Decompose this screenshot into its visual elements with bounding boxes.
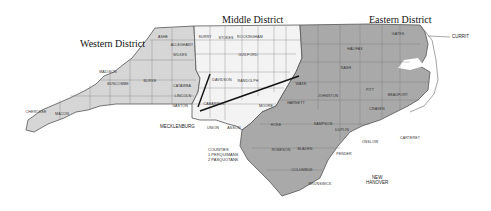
- county-label: MOORE: [259, 104, 273, 108]
- county-label: HALIFAX: [347, 47, 362, 51]
- county-label: PENDER: [336, 152, 352, 156]
- county-label: NASH: [341, 66, 351, 70]
- county-label: JOHNSTON: [318, 94, 339, 98]
- county-label: HOKE: [271, 123, 282, 127]
- county-label: MADISON: [99, 70, 116, 74]
- county-label: CARTERET: [400, 136, 420, 140]
- county-label: MACON: [55, 112, 69, 116]
- county-label: SURRY: [198, 35, 211, 39]
- county-label: COLUMBUS: [291, 168, 312, 172]
- county-label: ALLEGHANY: [171, 43, 193, 47]
- county-label: CABARRUS: [204, 102, 225, 106]
- county-label: CHEROKEE: [26, 110, 47, 114]
- county-label: WILKES: [173, 53, 187, 57]
- counties-legend: COUNTIES 1 PERQUIMANS 2 PASQUOTANK: [208, 147, 239, 162]
- county-label: STOKES: [218, 36, 233, 40]
- county-label: UNION: [207, 126, 219, 130]
- county-label: SAMPSON: [314, 122, 333, 126]
- county-label: WAKE: [296, 82, 307, 86]
- county-label: ANSON: [227, 126, 240, 130]
- legend-item: 2 PASQUOTANK: [208, 157, 239, 162]
- county-label: DUPLIN: [335, 128, 349, 132]
- county-label: GATES: [392, 32, 404, 36]
- new-hanover-label: NEW HANOVER: [366, 175, 388, 185]
- eastern-district-title: Eastern District: [369, 14, 431, 25]
- county-label: LINCOLN: [175, 94, 191, 98]
- new-hanover-line2: HANOVER: [366, 180, 388, 185]
- county-label: BLADEN: [298, 147, 313, 151]
- county-label: BRUNSWICK: [309, 182, 332, 186]
- county-label: RANDOLPH: [238, 79, 259, 83]
- county-label: CRAVEN: [369, 107, 384, 111]
- nc-district-map: [0, 0, 491, 211]
- county-label: ROBESON: [272, 148, 291, 152]
- county-label: BEAUFORT: [388, 93, 408, 97]
- county-label: ROCKINGHAM: [237, 35, 263, 39]
- county-label: ASHE: [158, 35, 168, 39]
- western-district-title: Western District: [80, 38, 145, 49]
- county-label: DAVIDSON: [212, 78, 231, 82]
- currituck-label: CURRIT: [452, 34, 469, 39]
- county-label: GASTON: [172, 104, 188, 108]
- county-label: PITT: [366, 88, 374, 92]
- county-label: HARNETT: [287, 101, 305, 105]
- county-label: BUNCOMBE: [107, 82, 129, 86]
- mecklenburg-label: MECKLENBURG: [160, 124, 195, 129]
- county-label: ONSLOW: [362, 140, 379, 144]
- county-label: BURKE: [144, 79, 157, 83]
- county-label: CATAWBA: [173, 84, 191, 88]
- currituck-leader: [428, 36, 450, 37]
- middle-district-title: Middle District: [222, 14, 283, 25]
- county-label: GUILFORD: [238, 53, 257, 57]
